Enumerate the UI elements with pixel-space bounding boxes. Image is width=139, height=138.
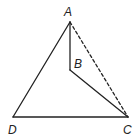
label-A: A [63,5,72,19]
segment-BC [70,70,128,117]
label-C: C [123,123,132,137]
label-B: B [74,57,82,71]
segments [13,22,128,117]
segment-AD [13,22,70,117]
geometry-diagram: A B C D [0,0,139,138]
label-D: D [8,123,17,137]
